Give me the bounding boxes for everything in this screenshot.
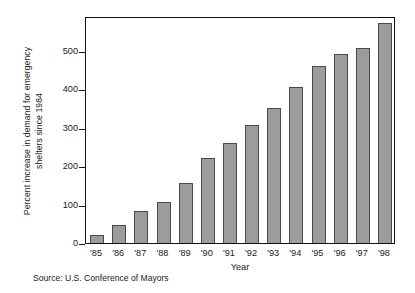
y-axis-tick-label: 100 — [48, 201, 78, 210]
bar — [378, 23, 392, 243]
bar — [179, 183, 193, 243]
plot-area — [85, 17, 395, 244]
bar — [334, 54, 348, 243]
x-axis-tick-label: '92 — [245, 248, 257, 259]
x-axis-tick-label: '94 — [289, 248, 301, 259]
y-axis-tick-label: 200 — [48, 162, 78, 171]
x-axis-tick-label: '89 — [179, 248, 191, 259]
y-axis-title: Percent increase in demand for emergency… — [18, 17, 48, 244]
x-axis-tick-label: '93 — [267, 248, 279, 259]
bar — [134, 211, 148, 243]
y-axis-tick-label: 400 — [48, 85, 78, 94]
y-axis-tick-label: 0 — [48, 239, 78, 248]
bar-series — [86, 18, 394, 243]
x-axis-tick-label: '86 — [112, 248, 124, 259]
x-axis-tick-label: '98 — [378, 248, 390, 259]
x-axis-tick-label: '87 — [134, 248, 146, 259]
x-axis-tick-label: '96 — [334, 248, 346, 259]
bar — [90, 235, 104, 243]
bar — [289, 87, 303, 243]
bar-chart-figure: Percent increase in demand for emergency… — [0, 0, 415, 293]
y-axis-tick-mark — [79, 244, 85, 245]
bar — [157, 202, 171, 243]
x-axis-tick-label: '85 — [90, 248, 102, 259]
x-axis-tick-label: '90 — [201, 248, 213, 259]
x-axis-tick-label: '97 — [356, 248, 368, 259]
x-axis-title: Year — [85, 262, 395, 273]
bar — [201, 158, 215, 243]
source-note: Source: U.S. Conference of Mayors — [33, 273, 169, 283]
x-axis-tick-label: '88 — [157, 248, 169, 259]
bar — [356, 48, 370, 243]
bar — [267, 108, 281, 243]
bar — [245, 125, 259, 244]
y-axis-title-line-1: Percent increase in demand for emergency — [22, 46, 32, 214]
x-axis-tick-label: '95 — [312, 248, 324, 259]
y-axis-tick-labels: 0100200300400500 — [48, 17, 78, 244]
y-axis-tick-label: 300 — [48, 124, 78, 133]
bar — [112, 225, 126, 243]
y-axis-tick-label: 500 — [48, 47, 78, 56]
bar — [312, 66, 326, 243]
x-axis-tick-label: '91 — [223, 248, 235, 259]
bar — [223, 143, 237, 243]
y-axis-title-line-2: shelters since 1984 — [33, 46, 45, 214]
x-axis-tick-labels: '85'86'87'88'89'90'91'92'93'94'95'96'97'… — [85, 248, 395, 262]
